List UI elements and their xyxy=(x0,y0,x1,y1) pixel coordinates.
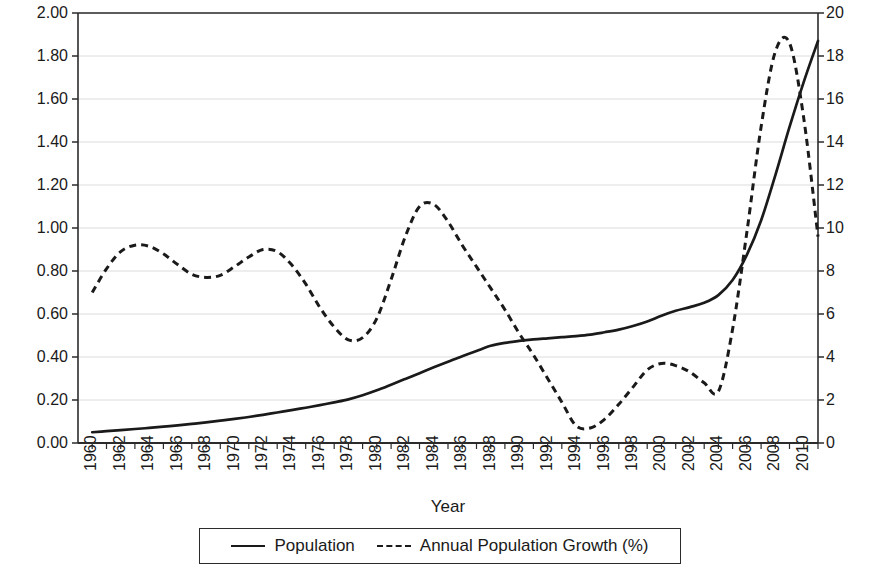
series-line-population xyxy=(92,41,818,432)
legend-swatch-solid-line xyxy=(231,545,265,547)
legend-entry-annual-growth: Annual Population Growth (%) xyxy=(377,536,649,556)
dual-axis-population-growth-chart: Populaton (Millions of People) % Annual … xyxy=(0,0,878,566)
legend-entry-population: Population xyxy=(231,536,354,556)
legend-swatch-dashed-line xyxy=(377,545,411,547)
series-line-annual-growth xyxy=(92,37,818,429)
legend-label-annual-growth: Annual Population Growth (%) xyxy=(420,536,649,556)
legend-label-population: Population xyxy=(274,536,354,556)
plot-area xyxy=(0,0,878,566)
chart-legend: Population Annual Population Growth (%) xyxy=(199,528,681,564)
